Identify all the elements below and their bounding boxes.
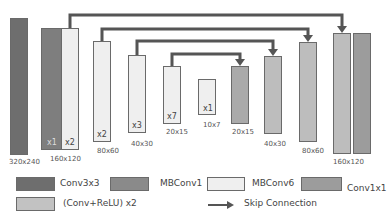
legend-swatch-conv-relu [16,197,55,211]
conv-relu-block [333,33,351,154]
legend-swatch-conv1x1 [301,177,342,191]
conv-relu-block [231,66,249,124]
repeat-label: x1 [47,138,57,147]
mbconv1-block [41,28,62,150]
legend-label-conv1x1: Conv1x1 [347,183,387,193]
repeat-label: x2 [65,138,75,147]
legend-label-mbconv6: MBConv6 [252,178,294,188]
size-label: 80x60 [302,147,324,155]
conv3x3-block [10,18,28,155]
legend-swatch-mbconv6 [207,177,245,191]
size-label: 40x30 [264,140,286,148]
arrowhead-icon [268,49,278,56]
skip-arrow-icon [208,201,234,209]
arrowhead-icon [235,59,245,66]
skip-line-160x120 [70,15,342,29]
legend-label-conv-relu: (Conv+ReLU) x2 [63,198,137,208]
mbconv6-block [93,41,111,142]
repeat-label: x2 [97,130,107,139]
arrowhead-icon [303,35,313,42]
skip-line-20x15 [172,54,240,66]
mbconv6-block [61,28,79,150]
size-label: 10x7 [203,121,221,129]
repeat-label: x3 [132,121,142,130]
legend-label-mbconv1: MBConv1 [160,178,202,188]
size-label: 20x15 [232,128,254,136]
size-label: 160x120 [50,155,81,163]
conv-relu-block [299,42,317,142]
size-label: 160x120 [333,158,364,166]
conv-relu-block [264,56,282,134]
size-label: 20x15 [166,128,188,136]
size-label: 320x240 [9,158,40,166]
size-label: 80x60 [97,147,119,155]
repeat-label: x1 [203,104,213,113]
repeat-label: x7 [167,112,177,121]
legend-swatch-conv3x3 [16,177,55,191]
legend-label-skip: Skip Connection [244,198,317,208]
legend-swatch-mbconv1 [110,177,149,191]
conv1x1-block [353,33,371,154]
arrowhead-icon [337,26,347,33]
legend-label-conv3x3: Conv3x3 [60,178,100,188]
size-label: 40x30 [131,140,153,148]
